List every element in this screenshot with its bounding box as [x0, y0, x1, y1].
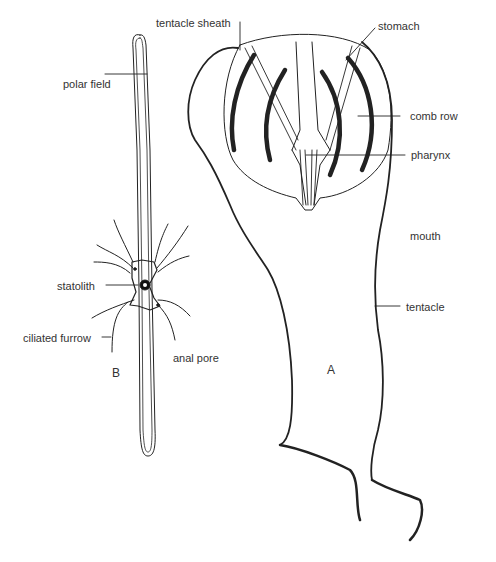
label-polar-field: polar field — [63, 78, 111, 90]
specimen-b-body — [92, 35, 190, 456]
label-tentacle-sheath: tentacle sheath — [156, 17, 231, 29]
label-mouth: mouth — [410, 230, 441, 242]
specimen-label-a: A — [327, 363, 335, 377]
specimen-label-b: B — [112, 366, 120, 380]
label-statolith: statolith — [57, 280, 95, 292]
specimen-a-body — [188, 34, 422, 540]
label-comb-row: comb row — [410, 110, 458, 122]
label-anal-pore: anal pore — [173, 352, 219, 364]
label-tentacle: tentacle — [406, 301, 445, 313]
label-ciliated-furrow: ciliated furrow — [23, 332, 91, 344]
label-stomach: stomach — [378, 20, 420, 32]
label-pharynx: pharynx — [411, 149, 450, 161]
